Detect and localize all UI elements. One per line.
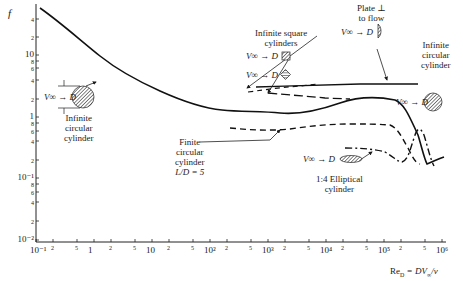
x-tick-label: 10²: [204, 246, 216, 255]
x-axis-label: ReD = DV∞/ν: [390, 266, 438, 280]
axes: [36, 4, 446, 242]
label-plate: Plate ⊥to flow: [357, 3, 386, 23]
x-tick-label: 2: [283, 244, 286, 253]
curves: [40, 8, 444, 166]
x-tick-label: 2: [399, 244, 402, 253]
x-tick-label: 2: [109, 244, 112, 253]
x-tick-label: 10⁶: [436, 246, 448, 255]
vinf-left: V∞ → D: [44, 92, 76, 102]
square-cylinder-flat-icon: [282, 52, 290, 60]
x-tick-label: 5: [423, 244, 426, 253]
x-tick-label: 5: [307, 244, 310, 253]
x-axis-rest: = DV: [404, 266, 427, 276]
y-tick-label: 4: [31, 138, 34, 147]
curve-square-diagonal: [268, 93, 350, 99]
x-tick-label: 2: [225, 244, 228, 253]
elliptical-cylinder-icon: [340, 156, 362, 163]
leader-lines: [86, 36, 387, 160]
label-square: Infinite squarecylinders: [255, 28, 307, 48]
y-tick-label: 2: [31, 157, 34, 166]
y-axis-label: f: [8, 8, 11, 18]
y-tick-label: 6: [31, 65, 34, 74]
x-tick-label: 5: [133, 244, 136, 253]
vinf-right: V∞ → D: [396, 97, 428, 107]
y-tick-label: 6: [31, 128, 34, 137]
x-tick-label: 10⁵: [378, 246, 390, 255]
label-circ-left: Infinitecircularcylinder: [64, 113, 94, 143]
y-tick-label: 2: [31, 96, 34, 105]
y-tick-label: 6: [31, 189, 34, 198]
x-axis-end: /ν: [431, 266, 438, 276]
curve-plate-perpendicular: [256, 84, 418, 87]
leader-left-circle: [86, 82, 96, 86]
square-cylinder-diagonal-icon: [281, 70, 291, 80]
y-tick-label: 2: [31, 34, 34, 43]
y-tick-label: 4: [31, 77, 34, 86]
x-tick-label: 2: [341, 244, 344, 253]
x-axis-re: Re: [390, 266, 400, 276]
x-tick-label: 10⁻¹: [30, 246, 46, 255]
x-tick-label: 5: [75, 244, 78, 253]
x-tick-label: 5: [365, 244, 368, 253]
y-tick-label: 4: [31, 16, 34, 25]
x-tick-label: 5: [249, 244, 252, 253]
x-tick-label: 10³: [262, 246, 274, 255]
y-tick-label: 4: [31, 199, 34, 208]
x-tick-label: 10⁴: [320, 246, 332, 255]
vinf-square-1: V∞ → D: [246, 51, 278, 61]
x-tick-label: 1: [88, 246, 93, 255]
x-tick-label: 10: [146, 246, 155, 255]
vinf-plate: V∞ → D: [341, 27, 373, 37]
y-tick-label: 10⁻²: [18, 235, 34, 244]
shape-icons: [58, 24, 442, 163]
x-tick-label: 2: [167, 244, 170, 253]
leader-plate: [377, 49, 387, 80]
label-finite: FinitecircularcylinderL/D = 5: [175, 137, 205, 177]
label-circ-right: Infinitecircularcylinder: [421, 40, 451, 70]
x-tick-label: 2: [51, 244, 54, 253]
vinf-square-2: V∞ → D: [246, 70, 278, 80]
label-ellip: 1:4 Ellipticalcylinder: [316, 174, 363, 194]
leader-finite-2: [270, 130, 280, 140]
x-tick-label: 5: [191, 244, 194, 253]
vinf-ellip: V∞ → D: [303, 154, 335, 164]
y-tick-label: 2: [31, 218, 34, 227]
plate-icon: [378, 24, 381, 38]
leader-finite: [200, 140, 270, 142]
